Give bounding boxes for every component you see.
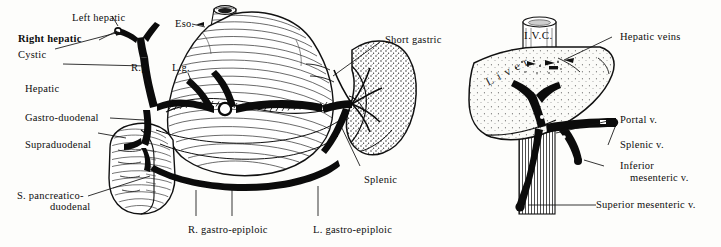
label-rg: R.g. [131, 62, 150, 74]
label-gastro-duodenal: Gastro-duodenal [25, 112, 99, 124]
label-lg: L.g. [172, 62, 190, 74]
label-splenic: Splenic [364, 174, 397, 186]
label-s-pancreaticoduodenal-line2: duodenal [50, 201, 91, 213]
label-hepatic-veins: Hepatic veins [620, 31, 681, 43]
label-ivc: I.V.C. [524, 30, 553, 42]
label-portal-v: Portal v. [620, 114, 657, 126]
label-hepatic: Hepatic [25, 83, 59, 95]
label-left-hepatic: Left hepatic [72, 12, 125, 24]
label-supraduodenal: Supraduodenal [25, 139, 91, 151]
label-l-gastro-epiploic: L. gastro-epiploic [313, 224, 392, 236]
label-r-gastro-epiploic: R. gastro-epiploic [188, 224, 268, 236]
label-superior-mesenteric-v: Superior mesenteric v. [596, 199, 696, 211]
label-cystic: Cystic [18, 49, 46, 61]
label-splenic-v: Splenic v. [620, 139, 664, 151]
label-inferior-mesenteric-line2: mesenteric v. [630, 172, 689, 184]
anatomical-figure: Left hepatic Right hepatic Cystic Hepati… [0, 0, 721, 247]
label-eso: Eso. [175, 18, 194, 30]
label-inferior-mesenteric-line1: Inferior [620, 160, 654, 172]
label-short-gastric: Short gastric [385, 34, 442, 46]
label-right-hepatic: Right hepatic [18, 33, 82, 45]
label-s-pancreaticoduodenal-line1: S. pancreatico- [17, 190, 84, 202]
